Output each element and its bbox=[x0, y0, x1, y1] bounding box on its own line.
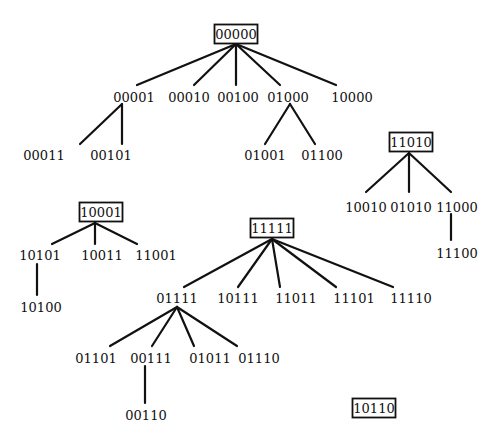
node-11011: 11011 bbox=[275, 291, 316, 306]
edge-01111-00111 bbox=[152, 307, 177, 346]
node-10100: 10100 bbox=[20, 300, 61, 315]
node-label: 10100 bbox=[20, 300, 61, 315]
node-11000: 11000 bbox=[436, 200, 477, 215]
node-label: 01000 bbox=[267, 90, 308, 105]
node-label: 10001 bbox=[80, 205, 121, 220]
node-label: 00100 bbox=[217, 90, 258, 105]
root-node-11010: 11010 bbox=[390, 133, 433, 152]
node-label: 11010 bbox=[390, 135, 431, 150]
node-01100: 01100 bbox=[301, 148, 342, 163]
node-00110: 00110 bbox=[125, 408, 166, 423]
node-label: 11101 bbox=[333, 291, 374, 306]
node-01111: 01111 bbox=[156, 291, 197, 306]
node-label: 10111 bbox=[217, 291, 258, 306]
node-label: 00011 bbox=[23, 148, 64, 163]
node-label: 00101 bbox=[90, 148, 131, 163]
node-00100: 00100 bbox=[217, 90, 258, 105]
node-01001: 01001 bbox=[244, 148, 285, 163]
node-10111: 10111 bbox=[217, 291, 258, 306]
node-label: 11100 bbox=[436, 246, 477, 261]
edge-01111-01101 bbox=[110, 307, 177, 346]
root-node-11111: 11111 bbox=[251, 219, 294, 238]
edge-01000-01001 bbox=[265, 104, 290, 144]
node-label: 00010 bbox=[168, 90, 209, 105]
node-00001: 00001 bbox=[113, 90, 154, 105]
node-11001: 11001 bbox=[135, 248, 176, 263]
edge-00000-01000 bbox=[236, 44, 280, 85]
node-label: 10000 bbox=[331, 90, 372, 105]
node-00011: 00011 bbox=[23, 148, 64, 163]
edge-00000-10000 bbox=[236, 44, 336, 85]
node-00111: 00111 bbox=[130, 351, 171, 366]
root-node-10001: 10001 bbox=[80, 203, 123, 222]
edge-00001-00011 bbox=[80, 104, 122, 144]
node-label: 01001 bbox=[244, 148, 285, 163]
node-label: 01011 bbox=[189, 351, 230, 366]
node-10000: 10000 bbox=[331, 90, 372, 105]
node-layer: 0000000001000100010001000100000001100101… bbox=[19, 25, 477, 423]
edge-10001-10101 bbox=[52, 223, 95, 244]
binary-string-forest-diagram: 0000000001000100010001000100000001100101… bbox=[0, 0, 497, 442]
node-label: 10010 bbox=[345, 200, 386, 215]
node-label: 01111 bbox=[156, 291, 197, 306]
node-00010: 00010 bbox=[168, 90, 209, 105]
root-node-00000: 00000 bbox=[215, 25, 258, 44]
node-10101: 10101 bbox=[19, 248, 60, 263]
edge-00000-00010 bbox=[194, 44, 236, 85]
edge-00000-00001 bbox=[137, 44, 236, 85]
edge-11010-10010 bbox=[366, 153, 409, 192]
node-11100: 11100 bbox=[436, 246, 477, 261]
node-label: 01101 bbox=[75, 351, 116, 366]
node-11110: 11110 bbox=[390, 291, 431, 306]
node-label: 11000 bbox=[436, 200, 477, 215]
node-01101: 01101 bbox=[75, 351, 116, 366]
node-label: 00001 bbox=[113, 90, 154, 105]
node-label: 10110 bbox=[353, 401, 394, 416]
node-label: 00000 bbox=[215, 27, 256, 42]
edge-10001-11001 bbox=[95, 223, 137, 244]
edge-11111-01111 bbox=[184, 239, 272, 287]
edge-11111-11011 bbox=[272, 239, 280, 287]
node-label: 11110 bbox=[390, 291, 431, 306]
edge-11111-11110 bbox=[272, 239, 393, 287]
node-01011: 01011 bbox=[189, 351, 230, 366]
node-10011: 10011 bbox=[81, 248, 122, 263]
node-label: 01100 bbox=[301, 148, 342, 163]
node-01010: 01010 bbox=[390, 200, 431, 215]
diagram-canvas: 0000000001000100010001000100000001100101… bbox=[0, 0, 497, 442]
node-label: 11011 bbox=[275, 291, 316, 306]
node-10010: 10010 bbox=[345, 200, 386, 215]
node-label: 00111 bbox=[130, 351, 171, 366]
node-11101: 11101 bbox=[333, 291, 374, 306]
edge-11111-10111 bbox=[238, 239, 272, 287]
node-label: 11111 bbox=[251, 221, 292, 236]
edge-11111-11101 bbox=[272, 239, 336, 287]
node-label: 10011 bbox=[81, 248, 122, 263]
root-node-10110: 10110 bbox=[353, 399, 396, 418]
node-label: 10101 bbox=[19, 248, 60, 263]
edge-01000-01100 bbox=[290, 104, 315, 144]
node-00101: 00101 bbox=[90, 148, 131, 163]
node-01000: 01000 bbox=[267, 90, 308, 105]
node-label: 11001 bbox=[135, 248, 176, 263]
node-label: 00110 bbox=[125, 408, 166, 423]
node-01110: 01110 bbox=[238, 351, 279, 366]
node-label: 01110 bbox=[238, 351, 279, 366]
edge-11010-11000 bbox=[409, 153, 451, 192]
node-label: 01010 bbox=[390, 200, 431, 215]
